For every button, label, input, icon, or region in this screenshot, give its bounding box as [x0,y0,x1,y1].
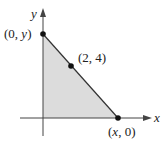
point-y-intercept [40,31,46,37]
x-axis-label: x [153,110,160,125]
label-y-intercept: (0, y) [4,26,31,41]
x-axis-arrow-icon [143,115,152,121]
y-axis-label: y [29,6,37,21]
point-x-intercept [115,115,121,121]
y-axis-arrow-icon [40,8,46,17]
label-given-point: (2, 4) [78,50,106,65]
label-x-intercept: (x, 0) [108,124,135,139]
point-given [68,63,74,69]
coordinate-diagram: y x (0, y) (2, 4) (x, 0) [0,0,168,144]
